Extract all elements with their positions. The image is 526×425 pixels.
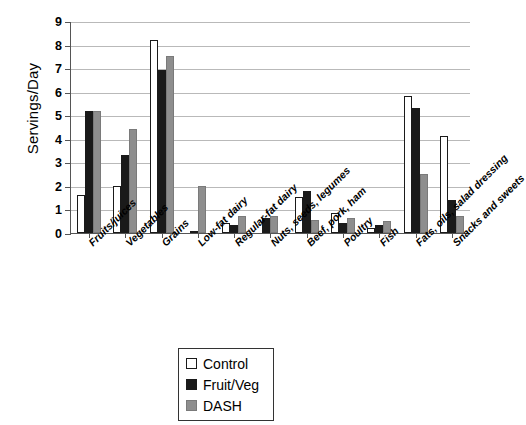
- bar-dash[interactable]: [129, 129, 137, 233]
- legend-swatch-control-icon: [186, 358, 197, 369]
- bar-group: [397, 22, 433, 233]
- y-axis-tick-label: 5: [55, 109, 62, 123]
- bar-fv[interactable]: [412, 108, 420, 233]
- y-axis-tick-label: 6: [55, 86, 62, 100]
- bar-dash[interactable]: [420, 174, 428, 233]
- legend-item-dash[interactable]: DASH: [186, 395, 259, 416]
- y-axis-tick-label: 3: [55, 156, 62, 170]
- y-axis-tick-label: 8: [55, 39, 62, 53]
- y-axis-tick: [65, 234, 71, 235]
- bar-group: [71, 22, 107, 233]
- bar-control[interactable]: [150, 40, 158, 233]
- bar-control[interactable]: [404, 96, 412, 233]
- bar-fv[interactable]: [121, 155, 129, 233]
- bar-group: [180, 22, 216, 233]
- legend-swatch-fruit-veg-icon: [186, 379, 197, 390]
- bar-dash[interactable]: [93, 111, 101, 233]
- y-axis-title: Servings/Day: [24, 19, 41, 199]
- legend: Control Fruit/Veg DASH: [178, 348, 274, 421]
- bar-fv[interactable]: [230, 225, 238, 233]
- bar-fv[interactable]: [85, 111, 93, 233]
- y-axis-tick-label: 4: [55, 133, 62, 147]
- y-axis-tick-label: 0: [55, 227, 62, 241]
- x-axis-labels: Fruits/juicesVegetablesGrainsLow-fat dai…: [70, 240, 470, 335]
- bar-control[interactable]: [77, 195, 85, 233]
- y-axis-tick-label: 2: [55, 180, 62, 194]
- y-axis-tick-label: 9: [55, 15, 62, 29]
- bar-fv[interactable]: [375, 225, 383, 233]
- bar-fv[interactable]: [190, 231, 198, 233]
- y-axis-tick-label: 1: [55, 203, 62, 217]
- bar-group: [361, 22, 397, 233]
- bar-fv[interactable]: [339, 223, 347, 233]
- legend-label-fruit-veg: Fruit/Veg: [203, 377, 259, 393]
- y-axis-tick-label: 7: [55, 62, 62, 76]
- legend-label-control: Control: [203, 356, 248, 372]
- legend-swatch-dash-icon: [186, 400, 197, 411]
- bar-dash[interactable]: [198, 186, 206, 233]
- legend-item-control[interactable]: Control: [186, 353, 259, 374]
- legend-item-fruit-veg[interactable]: Fruit/Veg: [186, 374, 259, 395]
- legend-label-dash: DASH: [203, 398, 242, 414]
